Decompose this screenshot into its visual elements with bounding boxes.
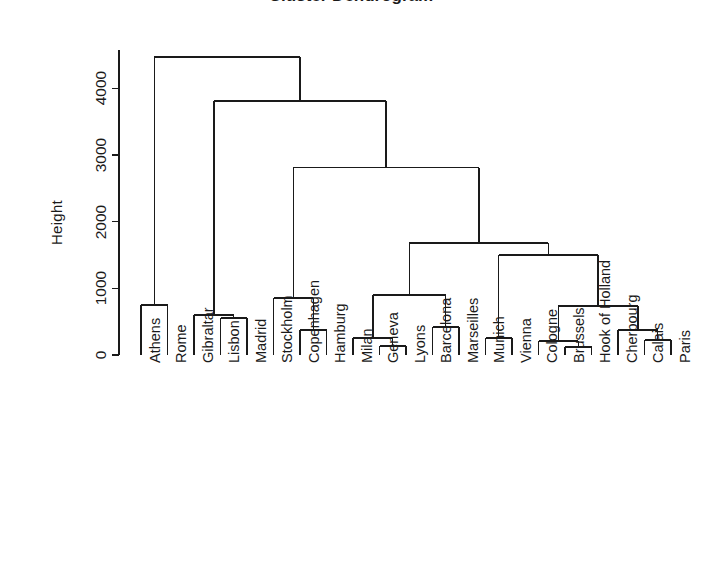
dendrogram-tree	[141, 57, 671, 355]
y-tick-label: 4000	[92, 58, 110, 118]
y-axis-label: Height	[48, 163, 65, 283]
leaf-label: Paris	[677, 330, 693, 363]
leaf-label: Hamburg	[332, 303, 348, 363]
leaf-label: Geneva	[385, 312, 401, 363]
leaf-label: Rome	[173, 324, 189, 363]
leaf-label: Marseilles	[465, 298, 481, 363]
leaf-label: Copenhagen	[306, 280, 322, 363]
leaf-label: Stockholm	[279, 295, 295, 363]
y-axis	[112, 50, 119, 355]
y-tick-label: 0	[92, 325, 110, 385]
y-tick-label: 1000	[92, 258, 110, 318]
leaf-label: Brussels	[571, 307, 587, 363]
y-tick-label: 2000	[92, 192, 110, 252]
leaf-label: Athens	[147, 318, 163, 363]
leaf-label: Milan	[359, 328, 375, 363]
leaf-label: Lisbon	[226, 320, 242, 363]
leaf-label: Cherbourg	[624, 294, 640, 363]
leaf-label: Madrid	[253, 319, 269, 363]
dendrogram-plot: Cluster Dendrogram Height 01000200030004…	[0, 0, 702, 572]
leaf-label: Lyons	[412, 325, 428, 363]
y-tick-label: 3000	[92, 125, 110, 185]
leaf-label: Calais	[650, 323, 666, 363]
leaf-label: Vienna	[518, 318, 534, 363]
leaf-label: Hook of Holland	[597, 260, 613, 363]
leaf-label: Munich	[491, 316, 507, 363]
leaf-label: Gibraltar	[200, 307, 216, 363]
leaf-label: Cologne	[544, 309, 560, 363]
leaf-label: Barcelona	[438, 298, 454, 363]
